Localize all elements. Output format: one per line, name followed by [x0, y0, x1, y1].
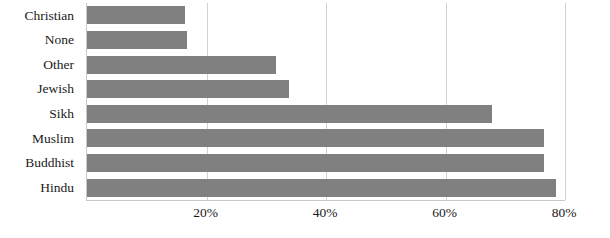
x-axis-tick-labels: 20% 40% 60% 80%	[0, 205, 610, 229]
category-label: Hindu	[0, 175, 80, 200]
bar-none	[87, 31, 187, 49]
bar-row	[87, 77, 565, 102]
gridline	[565, 3, 566, 200]
bar-hindu	[87, 179, 556, 197]
category-label: None	[0, 28, 80, 53]
plot-area	[86, 3, 565, 200]
x-tick-label: 20%	[193, 205, 218, 221]
bar-christian	[87, 6, 185, 24]
bar-muslim	[87, 129, 544, 147]
category-label: Muslim	[0, 126, 80, 151]
bar-chart: Christian None Other Jewish Sikh Muslim …	[0, 0, 610, 238]
bar-row	[87, 28, 565, 53]
bar-row	[87, 151, 565, 176]
bar-jewish	[87, 80, 289, 98]
bar-other	[87, 56, 276, 74]
category-label: Sikh	[0, 102, 80, 127]
x-tick-label: 60%	[432, 205, 457, 221]
bar-row	[87, 52, 565, 77]
bar-row	[87, 102, 565, 127]
category-label: Other	[0, 52, 80, 77]
x-axis-line	[86, 200, 565, 201]
bar-series	[87, 3, 565, 200]
category-axis: Christian None Other Jewish Sikh Muslim …	[0, 3, 80, 200]
x-tick-label: 80%	[552, 205, 577, 221]
bar-buddhist	[87, 154, 544, 172]
bar-row	[87, 126, 565, 151]
category-label: Jewish	[0, 77, 80, 102]
category-label: Buddhist	[0, 151, 80, 176]
bar-sikh	[87, 105, 492, 123]
bar-row	[87, 3, 565, 28]
bar-row	[87, 175, 565, 200]
x-tick-label: 40%	[313, 205, 338, 221]
category-label: Christian	[0, 3, 80, 28]
